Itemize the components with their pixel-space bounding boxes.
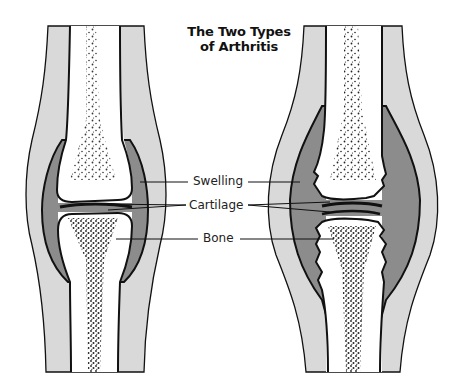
diagram-title: The Two Types of Arthritis	[184, 24, 294, 54]
left-joint	[26, 26, 166, 372]
title-line-1: The Two Types	[184, 24, 294, 39]
right-joint	[268, 26, 437, 372]
label-bone: Bone	[203, 231, 234, 245]
label-cartilage: Cartilage	[189, 198, 243, 212]
title-line-2: of Arthritis	[184, 39, 294, 54]
label-swelling: Swelling	[193, 174, 243, 188]
arthritis-diagram	[0, 0, 462, 390]
